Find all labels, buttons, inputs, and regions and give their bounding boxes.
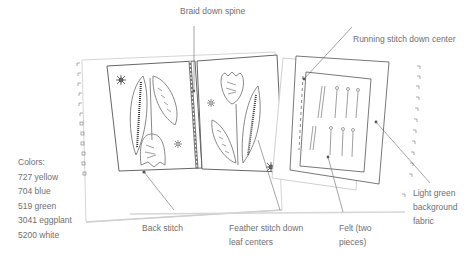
color-item: 3041 eggplant xyxy=(18,213,72,228)
label-feather-line1: Feather stitch down xyxy=(229,221,303,235)
label-background-line1: Light green xyxy=(413,186,457,200)
label-felt-line2: pieces) xyxy=(339,235,372,249)
color-item: 519 green xyxy=(18,199,72,214)
label-felt-line1: Felt (two xyxy=(339,221,372,235)
color-item: 704 blue xyxy=(18,184,72,199)
label-felt: Felt (two pieces) xyxy=(339,221,372,249)
label-feather-line2: leaf centers xyxy=(229,235,303,249)
label-background-fabric: Light green background fabric xyxy=(413,186,457,228)
label-background-line2: background xyxy=(413,200,457,214)
right-felt-panel xyxy=(193,55,283,172)
label-braid-spine: Braid down spine xyxy=(180,4,245,18)
colors-legend: Colors: 727 yellow 704 blue 519 green 30… xyxy=(18,155,72,242)
colors-heading: Colors: xyxy=(18,155,72,170)
color-item: 727 yellow xyxy=(18,170,72,185)
label-feather-stitch: Feather stitch down leaf centers xyxy=(229,221,303,249)
color-item: 5200 white xyxy=(18,228,72,243)
left-felt-panel xyxy=(107,61,202,174)
label-running-stitch: Running stitch down center xyxy=(353,32,456,46)
label-background-line3: fabric xyxy=(413,214,457,228)
label-back-stitch: Back stitch xyxy=(142,221,183,235)
